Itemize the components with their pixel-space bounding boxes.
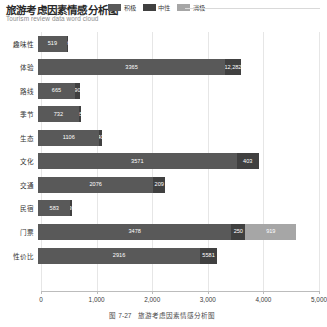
bar-row: 门票3478250919: [0, 220, 324, 244]
x-tick-mark: [97, 291, 98, 294]
bar-value-label: 665: [52, 88, 61, 94]
legend-item-neutral[interactable]: 中性: [143, 3, 171, 12]
bar-segment-中性[interactable]: 250: [231, 224, 245, 240]
bar-segment-积极[interactable]: 3365: [38, 59, 225, 75]
bar-segment-积极[interactable]: 3571: [38, 153, 237, 169]
bar-value-label: 2916: [113, 253, 125, 259]
bar-segment-中性[interactable]: 12,282: [225, 59, 241, 75]
bar-track: 110640: [38, 130, 324, 146]
x-tick-mark: [208, 291, 209, 294]
x-tick-mark: [263, 291, 264, 294]
bar-value-label: 1106: [63, 135, 75, 141]
bar-segment-积极[interactable]: 1106: [38, 130, 99, 146]
category-label: 体验: [0, 62, 38, 72]
x-tick-label: 4,000: [255, 296, 271, 303]
bar-row: 民宿58330: [0, 197, 324, 221]
x-tick-label: 0: [39, 296, 43, 303]
bar-track: 66590: [38, 83, 324, 99]
bar-track: 29165581: [38, 248, 324, 264]
bar-row: 性价比29165581: [0, 244, 324, 268]
bar-segment-积极[interactable]: 583: [38, 200, 70, 216]
category-label: 生态: [0, 133, 38, 143]
bar-value-label: 250: [234, 229, 243, 235]
bar-segment-消极[interactable]: 919: [245, 224, 296, 240]
bar-value-label: 20: [67, 41, 68, 47]
bar-value-label: 732: [54, 112, 63, 118]
bar-row: 文化3571403: [0, 150, 324, 174]
plot-area: 趣味性51920体验336512,282路线66590季节73235生态1106…: [0, 28, 324, 300]
bar-segment-中性[interactable]: 30: [70, 200, 72, 216]
bar-segment-积极[interactable]: 665: [38, 83, 75, 99]
chart-header: 旅游考虑因素情感分析图 Tourism review data word clo…: [0, 0, 324, 28]
bar-value-label: 403: [243, 159, 252, 165]
category-label: 路线: [0, 86, 38, 96]
category-label: 民宿: [0, 203, 38, 213]
bar-row: 季节73235: [0, 103, 324, 127]
bar-value-label: 30: [70, 206, 72, 212]
legend-divider: [185, 8, 320, 9]
figure-caption: 图 7-27旅游考虑因素情感分析图: [0, 310, 324, 320]
bar-segment-中性[interactable]: 35: [79, 106, 81, 122]
legend-label-positive: 积极: [124, 3, 136, 12]
chart-subtitle: Tourism review data word cloud: [6, 15, 99, 22]
x-axis-line: [41, 291, 319, 292]
bar-value-label: 40: [99, 135, 101, 141]
bar-value-label: 12,282: [225, 65, 241, 71]
bar-segment-中性[interactable]: 20: [67, 36, 68, 52]
bar-rows: 趣味性51920体验336512,282路线66590季节73235生态1106…: [0, 32, 324, 291]
bar-value-label: 3365: [125, 65, 137, 71]
legend-swatch-positive: [108, 4, 121, 11]
bar-value-label: 90: [75, 88, 80, 94]
bar-segment-积极[interactable]: 519: [38, 36, 67, 52]
x-tick-label: 5,000: [311, 296, 327, 303]
category-label: 交通: [0, 180, 38, 190]
figure-number: 图 7-27: [109, 312, 131, 319]
category-label: 门票: [0, 227, 38, 237]
bar-segment-积极[interactable]: 732: [38, 106, 79, 122]
bar-segment-中性[interactable]: 90: [75, 83, 80, 99]
bar-row: 路线66590: [0, 79, 324, 103]
bar-value-label: 583: [50, 206, 59, 212]
x-tick-mark: [152, 291, 153, 294]
bar-segment-积极[interactable]: 2916: [38, 248, 200, 264]
bar-track: 58330: [38, 200, 324, 216]
bar-segment-中性[interactable]: 403: [237, 153, 259, 169]
bar-track: 2076209: [38, 177, 324, 193]
category-label: 季节: [0, 109, 38, 119]
bar-row: 生态110640: [0, 126, 324, 150]
x-axis: 01,0002,0003,0004,0005,000: [41, 296, 319, 310]
bar-value-label: 919: [266, 229, 275, 235]
x-tick-label: 2,000: [144, 296, 160, 303]
bar-value-label: 35: [79, 112, 81, 118]
bar-value-label: 3478: [128, 229, 140, 235]
bar-value-label: 519: [48, 41, 57, 47]
x-tick-mark: [41, 291, 42, 294]
legend-swatch-neutral: [143, 4, 156, 11]
bar-value-label: 3571: [131, 159, 143, 165]
bar-value-label: 2076: [89, 182, 101, 188]
category-label: 文化: [0, 156, 38, 166]
bar-row: 交通2076209: [0, 173, 324, 197]
bar-track: 51920: [38, 36, 324, 52]
x-tick-label: 1,000: [89, 296, 105, 303]
category-label: 趣味性: [0, 39, 38, 49]
bar-segment-中性[interactable]: 209: [153, 177, 165, 193]
bar-value-label: 5581: [202, 253, 214, 259]
x-tick-mark: [319, 291, 320, 294]
x-tick-label: 3,000: [200, 296, 216, 303]
bar-track: 336512,282: [38, 59, 324, 75]
bar-segment-中性[interactable]: 5581: [200, 248, 217, 264]
bar-segment-积极[interactable]: 2076: [38, 177, 153, 193]
bar-row: 趣味性51920: [0, 32, 324, 56]
bar-track: 3571403: [38, 153, 324, 169]
bar-row: 体验336512,282: [0, 56, 324, 80]
bar-track: 3478250919: [38, 224, 324, 240]
figure-caption-text: 旅游考虑因素情感分析图: [138, 312, 215, 319]
bar-value-label: 209: [155, 182, 164, 188]
legend-label-neutral: 中性: [158, 3, 170, 12]
legend-item-positive[interactable]: 积极: [108, 3, 136, 12]
bar-segment-积极[interactable]: 3478: [38, 224, 231, 240]
bar-segment-中性[interactable]: 40: [99, 130, 101, 146]
bar-track: 73235: [38, 106, 324, 122]
